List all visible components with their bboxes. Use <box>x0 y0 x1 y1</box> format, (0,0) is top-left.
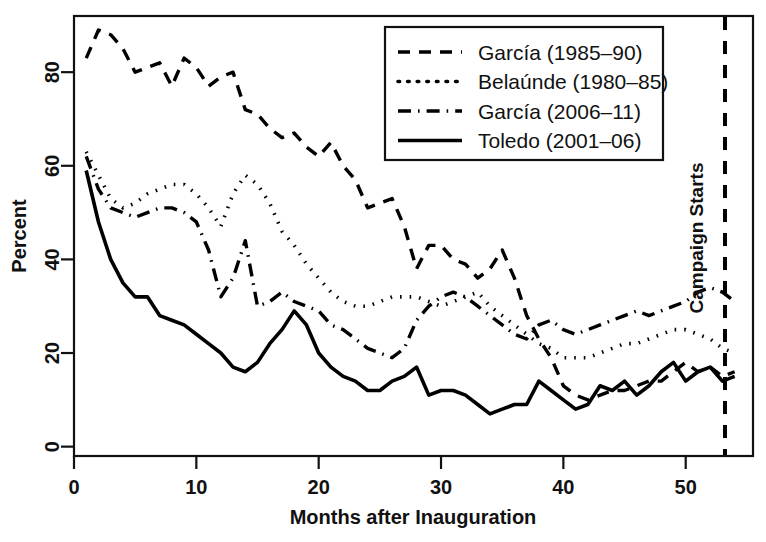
legend-label-3: Toledo (2001–06) <box>478 129 641 152</box>
y-tick-label: 80 <box>41 61 63 83</box>
y-axis-tick-labels: 020406080 <box>41 61 63 452</box>
legend-label-1: Belaúnde (1980–85) <box>478 70 668 93</box>
x-tick-label: 20 <box>308 476 330 498</box>
y-axis-title: Percent <box>8 199 30 273</box>
campaign-starts-label: Campaign Starts <box>686 163 707 314</box>
legend-label-2: García (2006–11) <box>478 100 641 123</box>
y-tick-label: 20 <box>41 342 63 364</box>
x-tick-label: 0 <box>68 476 79 498</box>
legend-label-0: García (1985–90) <box>478 41 643 64</box>
series-line-2 <box>86 156 734 357</box>
y-tick-label: 40 <box>41 248 63 270</box>
line-chart-svg: 020406080 01020304050 Percent Months aft… <box>0 0 766 542</box>
x-tick-label: 50 <box>675 476 697 498</box>
x-tick-label: 30 <box>430 476 452 498</box>
chart-figure: 020406080 01020304050 Percent Months aft… <box>0 0 766 542</box>
series-line-1 <box>86 152 734 358</box>
chart-legend: García (1985–90)Belaúnde (1980–85)García… <box>385 27 668 160</box>
series-line-3 <box>86 170 734 413</box>
x-tick-label: 10 <box>185 476 207 498</box>
x-axis-ticks <box>74 456 686 469</box>
x-axis-tick-labels: 01020304050 <box>68 476 696 498</box>
x-axis-title: Months after Inauguration <box>290 506 537 528</box>
y-tick-label: 0 <box>41 441 63 452</box>
x-tick-label: 40 <box>552 476 574 498</box>
y-tick-label: 60 <box>41 155 63 177</box>
